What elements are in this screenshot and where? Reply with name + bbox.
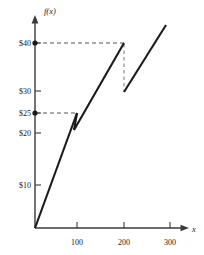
y-tick-labels-group: $40 $30 $25 $20 $10 (19, 39, 31, 190)
chart-svg: $40 $30 $25 $20 $10 100 200 300 f(x) x (0, 0, 204, 255)
x-axis-label: x (191, 224, 196, 234)
function-curve-group (35, 25, 166, 228)
y-tick-label-10: $10 (19, 181, 31, 190)
y-tick-label-40: $40 (19, 39, 31, 48)
y-axis-arrowhead (32, 15, 39, 24)
x-tick-label-300: 300 (164, 238, 176, 247)
y-tick-label-30: $30 (19, 87, 31, 96)
curve-segment-1 (35, 113, 77, 228)
y-tick-label-20: $20 (19, 129, 31, 138)
y-axis-label: f(x) (44, 6, 56, 16)
y-tick-label-25: $25 (19, 109, 31, 118)
curve-segment-2 (74, 43, 124, 130)
chart-figure: $40 $30 $25 $20 $10 100 200 300 f(x) x (0, 0, 204, 255)
axes-group (32, 15, 189, 231)
x-tick-label-100: 100 (71, 238, 83, 247)
guide-lines-group (32, 40, 124, 115)
axis-dot-25 (32, 110, 37, 115)
axis-dot-40 (32, 40, 37, 45)
curve-segment-3 (124, 25, 166, 92)
x-ticks-group (77, 222, 170, 228)
x-tick-label-200: 200 (118, 238, 130, 247)
x-axis-arrowhead (181, 225, 190, 231)
x-tick-labels-group: 100 200 300 (71, 238, 176, 247)
